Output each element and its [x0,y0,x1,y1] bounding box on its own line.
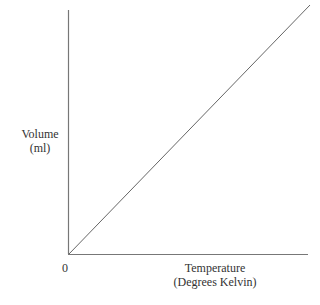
y-axis-label-line-1: Volume [12,127,68,141]
y-axis-label: Volume (ml) [12,127,68,155]
x-axis-label-line-2: (Degrees Kelvin) [150,275,280,289]
x-tick-0: 0 [62,261,68,275]
x-axis-label: Temperature (Degrees Kelvin) [150,261,280,289]
data-line [69,5,310,254]
x-axis-label-line-1: Temperature [150,261,280,275]
y-axis-label-line-2: (ml) [12,141,68,155]
